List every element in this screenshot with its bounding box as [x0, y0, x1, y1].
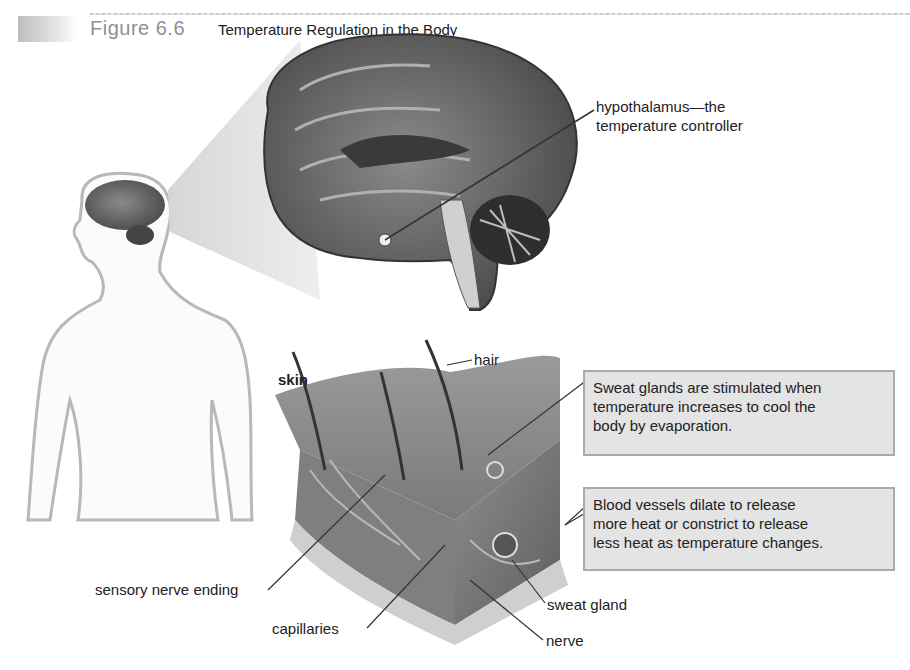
sweat-glands-callout: Sweat glands are stimulated when tempera… — [583, 370, 895, 456]
skin-label: skin — [278, 370, 308, 389]
blood-vessels-callout: Blood vessels dilate to release more hea… — [583, 487, 895, 571]
skin-cross-section-icon — [275, 340, 568, 645]
sweat-gland-label: sweat gland — [547, 595, 627, 614]
hypothalamus-label: hypothalamus—the temperature controller — [596, 97, 743, 135]
sensory-nerve-ending-label: sensory nerve ending — [95, 580, 238, 599]
nerve-label: nerve — [546, 631, 584, 650]
hair-label: hair — [474, 350, 499, 369]
capillaries-label: capillaries — [272, 619, 339, 638]
